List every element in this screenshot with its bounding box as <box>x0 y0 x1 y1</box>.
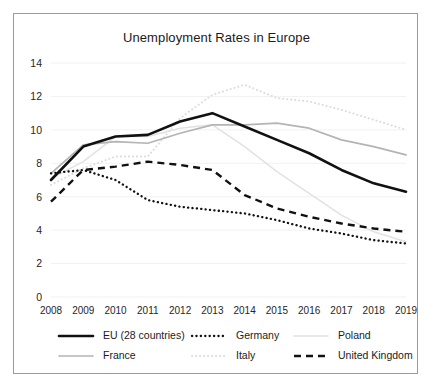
y-axis-tick-label: 6 <box>36 191 42 203</box>
line-chart: 02468101214 2008200920102011201220132014… <box>14 14 419 375</box>
x-axis-tick-label: 2015 <box>266 305 289 316</box>
y-axis-tick-label: 2 <box>36 257 42 269</box>
y-axis-tick-label: 4 <box>36 224 42 236</box>
x-axis-tick-label: 2010 <box>104 305 127 316</box>
x-axis-tick-label: 2017 <box>330 305 353 316</box>
x-axis-tick-label: 2019 <box>395 305 418 316</box>
y-axis-tick-label: 10 <box>30 124 42 136</box>
y-axis-tick-label: 12 <box>30 90 42 102</box>
y-axis-tick-label: 8 <box>36 157 42 169</box>
legend-label-germany: Germany <box>236 329 280 341</box>
x-axis-tick-label: 2016 <box>298 305 321 316</box>
x-axis-tick-label: 2018 <box>363 305 386 316</box>
x-axis-tick-label: 2011 <box>137 305 159 316</box>
x-axis-ticks: 2008200920102011201220132014201520162017… <box>40 305 418 316</box>
chart-card: Unemployment Rates in Europe 02468101214… <box>13 13 418 374</box>
legend-label-france: France <box>103 349 136 361</box>
legend-label-eu-28-countries: EU (28 countries) <box>103 329 185 341</box>
legend-label-united-kingdom: United Kingdom <box>338 349 413 361</box>
x-axis-tick-label: 2012 <box>169 305 192 316</box>
legend-label-italy: Italy <box>236 349 256 361</box>
gridlines <box>51 63 406 297</box>
x-axis-tick-label: 2009 <box>72 305 95 316</box>
y-axis-ticks: 02468101214 <box>30 57 42 303</box>
y-axis-tick-label: 0 <box>36 291 42 303</box>
legend-label-poland: Poland <box>338 329 371 341</box>
chart-legend: EU (28 countries)GermanyPolandFranceItal… <box>59 329 413 361</box>
y-axis-tick-label: 14 <box>30 57 42 69</box>
series-line-france <box>51 123 406 173</box>
x-axis-tick-label: 2008 <box>40 305 63 316</box>
series-group <box>51 85 406 244</box>
x-axis-tick-label: 2014 <box>234 305 257 316</box>
x-axis-tick-label: 2013 <box>201 305 224 316</box>
